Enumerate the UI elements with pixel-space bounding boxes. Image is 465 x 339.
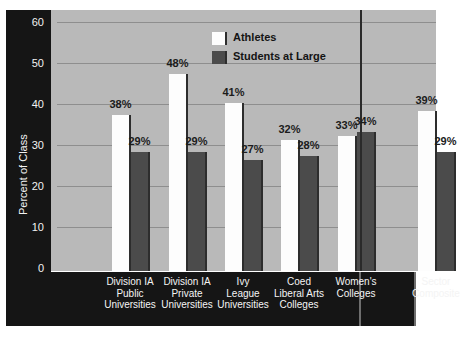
x-axis-label-line: Colleges [266, 299, 332, 311]
ytick-label-50: 50 [18, 57, 44, 69]
bar-students-at-large [131, 152, 148, 271]
x-axis-label-line: Colleges [323, 288, 389, 300]
bar-shadow [317, 156, 319, 271]
bar-shadow [148, 152, 150, 271]
bar-value-label: 27% [236, 143, 270, 155]
ytick-label-10: 10 [18, 221, 44, 233]
legend-swatch-athletes-icon [212, 32, 225, 45]
tick-60 [51, 22, 57, 23]
bar-athletes [225, 103, 242, 271]
gridline-60 [51, 22, 436, 23]
x-axis-label-line: Composite [403, 288, 465, 300]
legend-label-students-at-large: Students at Large [233, 50, 326, 62]
legend-swatch-shadow [225, 32, 227, 45]
bar-shadow [205, 152, 207, 271]
bar-students-at-large [437, 152, 454, 271]
bar-shadow [374, 132, 376, 271]
tick-50 [51, 63, 57, 64]
bar-value-label: 29% [429, 135, 463, 147]
tick-40 [51, 104, 57, 105]
bar-value-label: 34% [349, 115, 383, 127]
tick-30 [51, 145, 57, 146]
bar-shadow [454, 152, 456, 271]
legend-swatch-shadow [225, 51, 227, 64]
tick-20 [51, 186, 57, 187]
bar-value-label: 38% [104, 98, 138, 110]
bar-value-label: 29% [123, 135, 157, 147]
y-axis-title: Percent of Class [17, 134, 29, 215]
x-axis-label-5: SectorComposite [403, 276, 465, 299]
bar-athletes [338, 136, 355, 271]
tick-0 [51, 268, 57, 269]
bar-value-label: 41% [217, 86, 251, 98]
bar-students-at-large [300, 156, 317, 271]
legend-label-athletes: Athletes [233, 31, 276, 43]
bar-students-at-large [188, 152, 205, 271]
bar-value-label: 48% [161, 57, 195, 69]
bar-athletes [281, 140, 298, 271]
ytick-label-60: 60 [18, 16, 44, 28]
bar-value-label: 39% [410, 94, 444, 106]
ytick-label-0: 0 [18, 262, 44, 274]
x-axis-label-line: Sector [403, 276, 465, 288]
bar-value-label: 29% [180, 135, 214, 147]
legend-swatch-students-icon [212, 51, 225, 64]
x-axis-label-4: Women'sColleges [323, 276, 389, 299]
x-axis-label-line: Women's [323, 276, 389, 288]
gridline-50 [51, 63, 436, 64]
ytick-label-40: 40 [18, 98, 44, 110]
bar-shadow [261, 160, 263, 271]
bar-value-label: 28% [292, 139, 326, 151]
bar-value-label: 32% [273, 123, 307, 135]
bar-students-at-large [244, 160, 261, 271]
tick-10 [51, 227, 57, 228]
sector-separator-line [360, 10, 362, 271]
bar-athletes [169, 74, 186, 271]
